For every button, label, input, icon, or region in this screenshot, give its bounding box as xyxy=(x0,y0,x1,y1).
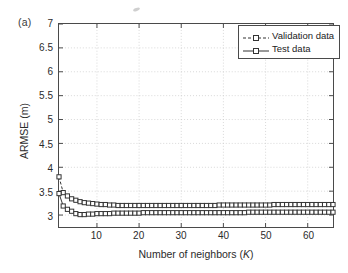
y-tick-label: 6 xyxy=(0,66,53,77)
legend-item-2[interactable]: Test data xyxy=(242,42,334,55)
y-tick-label: 7 xyxy=(0,18,53,29)
y-tick-label: 3.5 xyxy=(0,186,53,197)
x-axis-title: Number of neighbors (K) xyxy=(58,248,334,260)
x-axis-title-text: Number of neighbors (K) xyxy=(139,248,254,260)
legend-label-1: Validation data xyxy=(270,30,334,41)
x-tick-label: 50 xyxy=(246,230,286,241)
y-tick-label: 5 xyxy=(0,114,53,125)
legend-item-1[interactable]: Validation data xyxy=(242,29,334,42)
x-tick-label: 60 xyxy=(289,230,329,241)
figure-container: (a) ARMSE (m) Number of neighbors (K) 33… xyxy=(0,0,348,273)
y-tick-label: 4 xyxy=(0,162,53,173)
x-tick-label: 10 xyxy=(76,230,116,241)
legend-swatch-1-icon xyxy=(242,30,270,42)
x-tick-label: 20 xyxy=(119,230,159,241)
y-tick-label: 4.5 xyxy=(0,138,53,149)
legend[interactable]: Validation dataTest data xyxy=(238,25,340,59)
x-tick-label: 30 xyxy=(161,230,201,241)
x-tick-label: 40 xyxy=(204,230,244,241)
y-tick-label: 6.5 xyxy=(0,42,53,53)
y-tick-label: 3 xyxy=(0,210,53,221)
scan-artifact xyxy=(133,7,141,12)
series-1 xyxy=(57,175,335,208)
legend-swatch-2-icon xyxy=(242,43,270,55)
y-tick-label: 5.5 xyxy=(0,90,53,101)
legend-label-2: Test data xyxy=(270,43,311,54)
